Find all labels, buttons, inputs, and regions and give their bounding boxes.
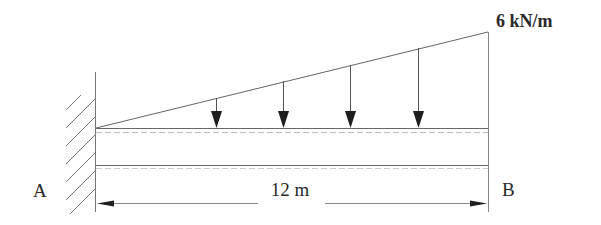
- arrow-right-icon: [470, 201, 487, 207]
- end-b-label: B: [502, 179, 515, 200]
- span-label: 12 m: [271, 179, 310, 200]
- down-arrow-icon: [413, 48, 424, 128]
- cantilever-beam-diagram: 12 m A B 6 kN/m: [0, 0, 601, 225]
- beam: [96, 129, 488, 169]
- support-a-label: A: [33, 180, 47, 201]
- fixed-support-wall: [66, 72, 96, 214]
- load-arrows: [211, 48, 424, 128]
- arrow-left-icon: [97, 201, 114, 207]
- load-intensity-label: 6 kN/m: [496, 11, 553, 31]
- wall-hatching-icon: [66, 95, 95, 214]
- down-arrow-icon: [211, 98, 222, 128]
- down-arrow-icon: [278, 81, 289, 128]
- span-dimension-line: [97, 201, 487, 207]
- down-arrow-icon: [345, 65, 356, 128]
